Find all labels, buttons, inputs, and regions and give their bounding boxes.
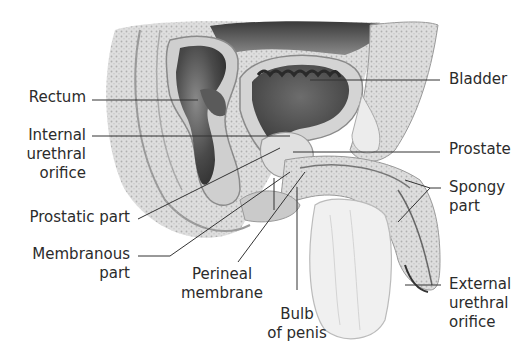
label-text: Bladder (449, 70, 507, 88)
label-text: orifice (8, 164, 86, 183)
label-rectum: Rectum (18, 88, 86, 107)
label-text: Membranous (10, 245, 130, 264)
label-text: Prostate (449, 140, 511, 158)
label-text: Perineal (172, 265, 272, 284)
label-spongy-part: Spongy part (449, 178, 505, 216)
label-prostate: Prostate (449, 140, 511, 159)
label-external-urethral-orifice: External urethral orifice (449, 275, 511, 332)
label-text: Prostatic part (29, 208, 130, 226)
label-text: External (449, 275, 511, 294)
label-membranous-part: Membranous part (10, 245, 130, 283)
label-text: urethral (8, 145, 86, 164)
anatomy-diagram: Rectum Internal urethral orifice Prostat… (0, 0, 531, 359)
label-perineal-membrane: Perineal membrane (172, 265, 272, 303)
label-internal-urethral-orifice: Internal urethral orifice (8, 126, 86, 183)
label-text: of penis (252, 324, 342, 343)
label-prostatic-part: Prostatic part (10, 208, 130, 227)
label-text: orifice (449, 313, 511, 332)
label-text: part (449, 197, 505, 216)
label-text: Internal (8, 126, 86, 145)
label-text: membrane (172, 284, 272, 303)
label-text: Rectum (29, 88, 86, 106)
label-text: urethral (449, 294, 511, 313)
label-bulb-of-penis: Bulb of penis (252, 305, 342, 343)
label-text: Spongy (449, 178, 505, 197)
label-text: part (10, 264, 130, 283)
label-text: Bulb (252, 305, 342, 324)
label-bladder: Bladder (449, 70, 507, 89)
